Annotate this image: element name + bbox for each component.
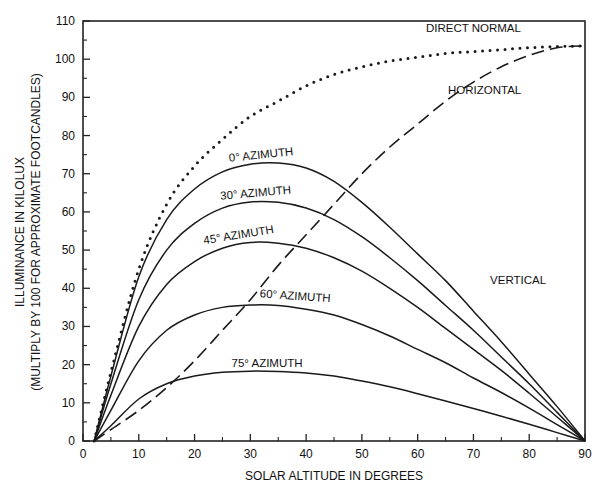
series-direct-normal xyxy=(94,46,585,441)
annotation-60-azimuth: 60° AZIMUTH xyxy=(259,287,331,304)
annotation-horizontal: HORIZONTAL xyxy=(448,84,522,96)
illuminance-chart: 0102030405060708090010203040506070809010… xyxy=(0,0,612,495)
x-tick-label: 80 xyxy=(523,447,537,461)
y-tick-label: 80 xyxy=(62,129,76,143)
annotation-75-azimuth: 75° AZIMUTH xyxy=(232,357,303,369)
y-tick-label: 90 xyxy=(62,90,76,104)
y-tick-label: 30 xyxy=(62,319,76,333)
series-0-azimuth xyxy=(94,163,585,441)
annotation-0-azimuth: 0° AZIMUTH xyxy=(228,145,294,164)
x-axis-label: SOLAR ALTITUDE IN DEGREES xyxy=(245,469,423,483)
x-tick-label: 70 xyxy=(467,447,481,461)
y-tick-label: 60 xyxy=(62,205,76,219)
x-tick-label: 30 xyxy=(244,447,258,461)
x-tick-label: 20 xyxy=(188,447,202,461)
x-tick-label: 60 xyxy=(411,447,425,461)
y-tick-label: 50 xyxy=(62,243,76,257)
y-axis-sublabel: (MULTIPLY BY 100 FOR APPROXIMATE FOOTCAN… xyxy=(29,73,43,391)
series-60-azimuth xyxy=(94,305,585,441)
annotation-30-azimuth: 30° AZIMUTH xyxy=(220,184,292,202)
x-tick-label: 90 xyxy=(578,447,592,461)
y-tick-label: 20 xyxy=(62,358,76,372)
series-30-azimuth xyxy=(94,201,585,441)
x-tick-label: 0 xyxy=(80,447,87,461)
y-tick-label: 0 xyxy=(68,434,75,448)
x-tick-label: 50 xyxy=(355,447,369,461)
y-tick-label: 100 xyxy=(55,52,75,66)
x-tick-label: 10 xyxy=(132,447,146,461)
series-lines xyxy=(94,46,585,441)
x-tick-label: 40 xyxy=(299,447,313,461)
y-tick-label: 70 xyxy=(62,167,76,181)
series-75-azimuth xyxy=(94,371,585,441)
annotation-direct-normal: DIRECT NORMAL xyxy=(426,22,522,34)
y-tick-label: 110 xyxy=(56,14,75,28)
series-horizontal xyxy=(94,46,585,441)
series-45-azimuth xyxy=(94,242,585,441)
y-tick-label: 40 xyxy=(62,281,76,295)
y-axis-label: ILLUMINANCE IN KILOLUX xyxy=(13,157,27,307)
axes: 0102030405060708090010203040506070809010… xyxy=(55,14,592,461)
y-tick-label: 10 xyxy=(62,396,76,410)
annotation-vertical: VERTICAL xyxy=(490,274,547,286)
curve-labels: DIRECT NORMALHORIZONTALVERTICAL0° AZIMUT… xyxy=(203,22,547,368)
